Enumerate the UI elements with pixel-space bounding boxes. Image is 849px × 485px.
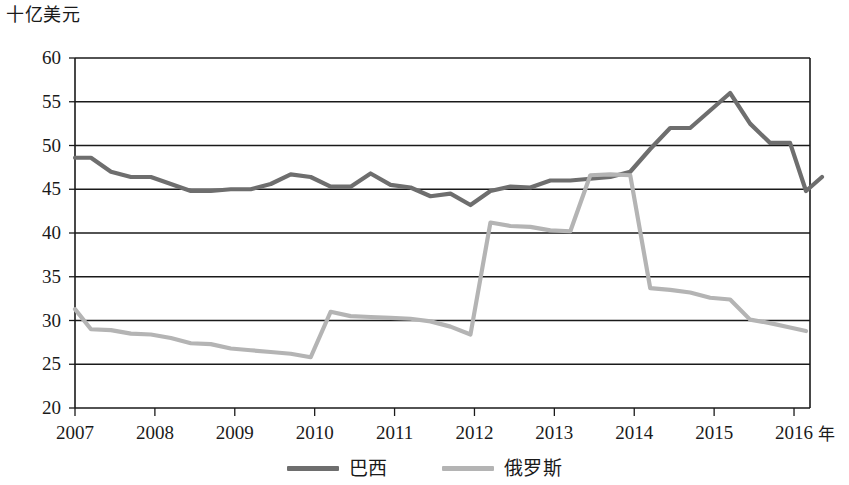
x-tick-label: 2009 — [200, 423, 270, 442]
x-tick-label: 2007 — [40, 423, 110, 442]
legend-label: 巴西 — [349, 458, 388, 479]
series-lines — [75, 93, 822, 357]
legend-label: 俄罗斯 — [504, 458, 563, 479]
chart-container: 十亿美元 202530354045505560 2007200820092010… — [0, 0, 849, 485]
x-tick-label: 2008 — [120, 423, 190, 442]
chart-legend: 巴西俄罗斯 — [0, 452, 849, 485]
y-tick-label: 30 — [15, 311, 61, 330]
y-tick-label: 20 — [15, 398, 61, 417]
x-axis-unit-label: 年 — [818, 425, 835, 444]
y-tick-label: 55 — [15, 92, 61, 111]
x-tick-label: 2013 — [519, 423, 589, 442]
x-tick-label: 2010 — [280, 423, 350, 442]
x-tick-label: 2012 — [439, 423, 509, 442]
legend-item-russia: 俄罗斯 — [442, 458, 563, 479]
legend-swatch-icon — [287, 466, 339, 471]
series-line-russia — [75, 174, 806, 357]
plot-area: 202530354045505560 200720082009201020112… — [0, 0, 849, 485]
x-tick-label: 2014 — [599, 423, 669, 442]
y-tick-label: 60 — [15, 48, 61, 67]
y-tick-label: 35 — [15, 267, 61, 286]
y-tick-label: 40 — [15, 223, 61, 242]
y-tick-label: 50 — [15, 136, 61, 155]
x-tick-label: 2011 — [360, 423, 430, 442]
legend-swatch-icon — [442, 466, 494, 471]
legend-item-brazil: 巴西 — [287, 458, 388, 479]
y-tick-label: 45 — [15, 179, 61, 198]
chart-svg — [0, 0, 849, 485]
x-axis-ticks — [75, 408, 794, 416]
series-line-brazil — [75, 93, 822, 205]
x-tick-label: 2015 — [679, 423, 749, 442]
y-tick-label: 25 — [15, 354, 61, 373]
grid-lines — [75, 58, 810, 408]
